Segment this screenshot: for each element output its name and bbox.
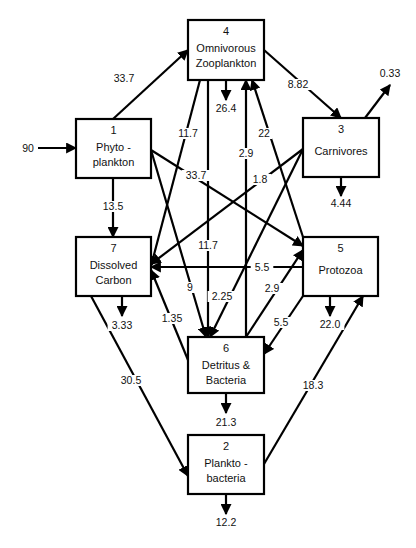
node-label-line2: plankton — [93, 156, 135, 168]
food-web-diagram: 9033.713.533.7911.711.726.48.822.9220.33… — [0, 0, 416, 548]
flow-value-label: 5.5 — [255, 261, 270, 273]
flow-value-label: 13.5 — [103, 200, 124, 212]
flow-value-label: 2.9 — [239, 147, 254, 159]
node-label-line1: Omnivorous — [196, 42, 256, 54]
flow-arrow-1-to-4 — [113, 50, 188, 119]
flow-value-label: 33.7 — [114, 72, 135, 84]
flow-value-label: 3.33 — [112, 319, 133, 331]
flow-value-label: 8.82 — [288, 78, 309, 90]
flow-value-label: 2.9 — [265, 282, 280, 294]
node-label: Carnivores — [314, 145, 368, 157]
flow-value-label: 18.3 — [303, 379, 324, 391]
node-number: 6 — [223, 342, 229, 354]
node-label: Protozoa — [318, 264, 363, 276]
flow-value-label: 21.3 — [216, 416, 237, 428]
flow-value-label: 26.4 — [216, 102, 237, 114]
node-number: 3 — [338, 123, 344, 135]
node-number: 1 — [110, 124, 116, 136]
node-number: 7 — [110, 242, 116, 254]
flow-arrow-5-to-4 — [252, 80, 303, 237]
node-label-line1: Dissolved — [90, 259, 138, 271]
node-label-line2: Carbon — [95, 274, 131, 286]
flow-value-label: 5.5 — [274, 316, 289, 328]
flow-value-label: 22.0 — [320, 318, 341, 330]
node-label-line2: Zooplankton — [196, 57, 257, 69]
node-label-line1: Detritus & — [202, 359, 251, 371]
flow-value-label: 90 — [22, 142, 34, 154]
flow-value-label: 0.33 — [380, 67, 401, 79]
flow-value-label: 2.25 — [212, 290, 233, 302]
node-label-line1: Plankto - — [204, 457, 248, 469]
node-4: 4OmnivorousZooplankton — [188, 20, 264, 80]
node-5: 5Protozoa — [303, 237, 378, 296]
flow-value-label: 33.7 — [186, 169, 207, 181]
flow-value-label: 22 — [258, 127, 270, 139]
flow-value-label: 1.35 — [162, 312, 183, 324]
flow-value-label: 4.44 — [331, 197, 352, 209]
flow-value-label: 9 — [187, 281, 193, 293]
node-number: 4 — [223, 25, 229, 37]
node-7: 7DissolvedCarbon — [76, 237, 151, 296]
node-6: 6Detritus &Bacteria — [188, 337, 264, 393]
flow-value-label: 30.5 — [121, 374, 142, 386]
flow-arrow-3-to-7 — [151, 149, 303, 264]
node-1: 1Phyto -plankton — [76, 119, 151, 178]
node-label-line2: bacteria — [206, 472, 246, 484]
flow-value-label: 11.7 — [178, 127, 198, 139]
node-2: 2Plankto -bacteria — [188, 435, 264, 494]
flow-arrow-3-to-out — [365, 85, 390, 118]
node-3: 3Carnivores — [303, 118, 379, 177]
flow-value-label: 1.8 — [253, 173, 268, 185]
node-label-line1: Phyto - — [96, 141, 131, 153]
flow-value-label: 11.7 — [198, 239, 218, 251]
node-label-line2: Bacteria — [206, 374, 247, 386]
node-number: 2 — [223, 440, 229, 452]
node-number: 5 — [337, 242, 343, 254]
flow-value-label: 12.2 — [216, 516, 237, 528]
